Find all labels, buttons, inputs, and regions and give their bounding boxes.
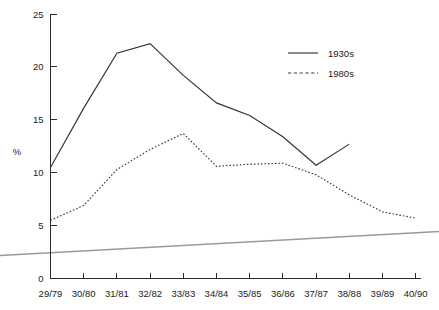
y-axis-ticks: 0510152025 [33,9,57,285]
x-tick-label: 31/81 [105,288,129,299]
series-line-1930s [51,44,350,168]
line-chart: 0510152025 29/7930/8031/8132/8233/8334/8… [0,0,439,310]
x-tick-label: 32/82 [138,288,162,299]
y-tick-label: 5 [38,220,43,231]
x-tick-label: 30/80 [72,288,96,299]
x-tick-label: 37/87 [304,288,328,299]
y-tick-label: 0 [38,273,43,284]
x-axis-ticks: 29/7930/8031/8132/8233/8334/8435/8536/86… [39,273,428,299]
series-line-1980s [51,134,416,221]
chart-series-group [51,44,416,221]
x-tick-label: 29/79 [39,288,63,299]
y-axis-title: % [13,146,22,157]
x-tick-label: 38/88 [337,288,361,299]
legend-label-1980s: 1980s [328,68,354,79]
y-tick-label: 25 [33,9,44,20]
y-tick-label: 10 [33,167,44,178]
x-tick-label: 39/89 [371,288,395,299]
chart-axes [51,14,422,279]
y-tick-label: 20 [33,61,44,72]
x-tick-label: 36/86 [271,288,295,299]
x-tick-label: 35/85 [238,288,262,299]
x-tick-label: 33/83 [171,288,195,299]
legend-label-1930s: 1930s [328,48,354,59]
x-tick-label: 40/90 [404,288,428,299]
scan-artifact-line [0,232,439,256]
x-tick-label: 34/84 [205,288,229,299]
y-tick-label: 15 [33,114,44,125]
chart-legend: 1930s1980s [288,48,354,79]
chart-container: 0510152025 29/7930/8031/8132/8233/8334/8… [0,0,439,310]
